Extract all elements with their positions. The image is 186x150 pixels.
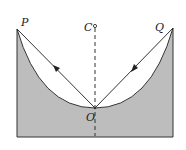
label-q: Q bbox=[155, 21, 164, 34]
point-c-marker bbox=[93, 24, 96, 27]
point-o-marker bbox=[94, 107, 96, 109]
label-c: C bbox=[84, 21, 93, 34]
label-p: P bbox=[20, 16, 29, 29]
label-o: O bbox=[86, 111, 95, 124]
diagram-canvas: P C Q O bbox=[0, 0, 186, 150]
